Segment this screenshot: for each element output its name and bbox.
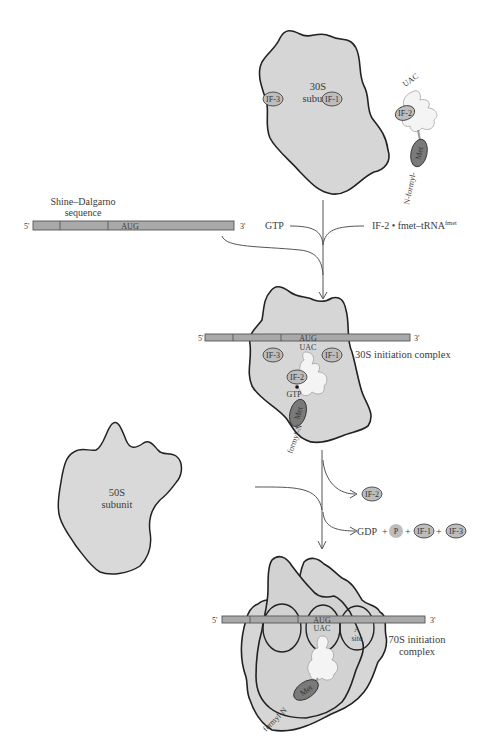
trna-acceptor-stem [418,130,420,140]
svg-text:IF-2: IF-2 [365,490,379,499]
released-if2: IF-2 [362,487,382,501]
complex-30s-initiation: 5' 3' AUG UAC IF-3 IF-1 IF-2 GTP Met for… [198,287,451,455]
svg-text:IF-2: IF-2 [290,373,304,382]
mrna-start-codon: AUG [121,222,139,231]
complex-30s-codon: AUG [299,334,317,343]
svg-text:+: + [382,526,388,537]
svg-text:IF-1: IF-1 [325,351,339,360]
released-phosphate: P [394,527,399,536]
gtp-input-label: GTP [265,220,284,231]
if2-fmet-trna-label: IF-2 • fmet–tRNAfmet [372,219,457,231]
subunit-50s-label-1: 50S [109,487,126,498]
inputs-to-30s: GTP IF-2 • fmet–tRNAfmet [222,200,457,299]
a-site-label-1: A [354,625,360,634]
svg-text:IF-3: IF-3 [449,527,463,536]
released-products: GDP + P + IF-1 + IF-3 [357,524,466,538]
subunit-30s-label-1: 30S [310,81,327,92]
complex-30s-formyl: formyl-N [285,423,304,455]
if2-gtp-bond [295,385,299,389]
mrna-3prime: 3' [240,222,246,231]
complex-30s-anticodon: UAC [300,343,317,352]
mrna-join-arrow [222,236,323,275]
svg-text:IF-3: IF-3 [266,351,280,360]
svg-text:3': 3' [430,616,436,625]
mrna-free: Shine–Dalgarno sequence 5' AUG 3' [24,196,246,231]
svg-text:+: + [436,526,442,537]
svg-text:5': 5' [212,616,218,625]
shine-dalgarno-label-2: sequence [65,207,102,218]
complex-30s-gtp: GTP [286,390,302,399]
complex-70s-label-1: 70S initiation [389,634,447,645]
if1-label: IF-1 [325,95,339,104]
a-site-label-2: site [351,634,363,643]
complex-70s-initiation: 5' 3' AUG UAC A site Met formyl-N 70S in… [212,557,446,734]
subunit-30s: 30S subunit IF-3 IF-1 [259,31,389,194]
translation-initiation-diagram: 30S subunit IF-3 IF-1 UAC IF-2 Met N-for… [0,0,485,751]
complex-70s-label-2: complex [399,646,436,657]
release-factors-arrow [323,512,355,531]
n-formyl-label: N-formyl- [402,171,418,205]
complex-70s-anticodon: UAC [314,624,331,633]
svg-text:5': 5' [198,334,204,343]
fmet-trna-if2-complex: UAC IF-2 Met N-formyl- [393,72,437,206]
release-if2-arrow [323,460,355,494]
trna-anticodon-label: UAC [401,72,420,89]
mrna-5prime: 5' [24,222,30,231]
50s-join-arrow [255,487,322,510]
shine-dalgarno-label-1: Shine–Dalgarno [51,196,116,207]
subunit-30s-shape [259,31,389,194]
subunit-50s: 50S subunit [58,422,181,574]
complex-30s-label: 30S initiation complex [355,349,451,360]
svg-text:3': 3' [414,334,420,343]
subunit-50s-label-2: subunit [102,499,133,510]
if2-label: IF-2 [398,109,412,118]
svg-text:IF-1: IF-1 [417,527,431,536]
assembly-arrows [255,450,357,549]
if3-label: IF-3 [266,95,280,104]
released-gdp: GDP [357,526,377,537]
svg-text:+: + [405,526,411,537]
